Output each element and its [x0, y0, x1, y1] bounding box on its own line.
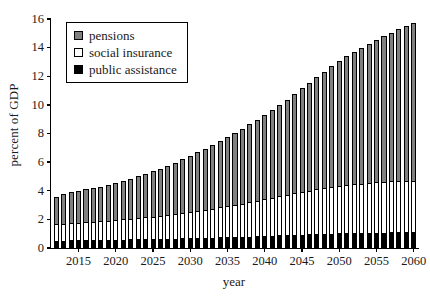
bar-segment-social-insurance [203, 210, 208, 238]
bar-segment-public-assistance [143, 239, 148, 248]
bar-segment-pensions [195, 152, 200, 211]
bar-segment-pensions [314, 77, 319, 189]
bar-segment-social-insurance [389, 181, 394, 232]
bar-segment-public-assistance [359, 233, 364, 248]
bar-stack [240, 129, 245, 248]
bar-segment-pensions [143, 174, 148, 217]
bar-segment-pensions [262, 115, 267, 199]
bar-segment-public-assistance [329, 234, 334, 248]
bar-segment-social-insurance [113, 220, 118, 240]
x-tick-label: 2030 [178, 252, 203, 268]
bar-segment-pensions [61, 194, 66, 223]
y-tick-label: 4 [38, 185, 47, 198]
bar-segment-social-insurance [136, 218, 141, 239]
bar-stack [277, 105, 282, 248]
bar-segment-public-assistance [83, 240, 88, 248]
bar-segment-social-insurance [180, 213, 185, 238]
bar-segment-pensions [165, 166, 170, 215]
bar-stack [143, 174, 148, 248]
bar-segment-social-insurance [352, 184, 357, 233]
bar-segment-public-assistance [136, 239, 141, 248]
bar-segment-pensions [322, 72, 327, 189]
bar-segment-pensions [292, 94, 297, 193]
bar-segment-social-insurance [151, 217, 156, 239]
bar-segment-pensions [91, 188, 96, 222]
bar-segment-pensions [411, 23, 416, 180]
white-square-icon [74, 48, 83, 57]
y-tick-label: 10 [32, 99, 48, 112]
bar-segment-social-insurance [300, 192, 305, 235]
bar-segment-social-insurance [255, 201, 260, 237]
bar-segment-public-assistance [121, 240, 126, 248]
bar-segment-public-assistance [188, 238, 193, 248]
bar-stack [165, 166, 170, 248]
bar-segment-social-insurance [188, 212, 193, 238]
x-axis-title: year [50, 274, 418, 290]
bar-segment-social-insurance [61, 224, 66, 241]
bar-segment-pensions [76, 191, 81, 223]
x-tick-label: 2015 [66, 252, 91, 268]
bar-segment-public-assistance [106, 240, 111, 248]
bar-stack [352, 52, 357, 248]
x-tick-label: 2060 [401, 252, 426, 268]
bar-segment-public-assistance [389, 232, 394, 248]
legend-item-label: social insurance [89, 46, 172, 59]
legend-item-label: public assistance [89, 63, 177, 76]
bar-stack [411, 23, 416, 248]
bar-segment-public-assistance [352, 233, 357, 248]
bar-segment-social-insurance [307, 191, 312, 235]
bar-segment-public-assistance [322, 234, 327, 248]
bar-stack [136, 176, 141, 248]
bar-segment-public-assistance [277, 235, 282, 248]
bar-segment-pensions [218, 141, 223, 207]
bar-segment-pensions [344, 56, 349, 185]
bar-stack [314, 77, 319, 248]
bar-segment-pensions [203, 149, 208, 210]
bar-segment-social-insurance [367, 183, 372, 233]
bar-segment-public-assistance [255, 236, 260, 248]
bar-stack [329, 66, 334, 248]
bar-segment-pensions [270, 110, 275, 198]
bar-stack [337, 61, 342, 248]
bar-stack [389, 33, 394, 248]
bar-segment-public-assistance [128, 239, 133, 248]
bar-segment-social-insurance [91, 222, 96, 240]
bar-segment-social-insurance [314, 189, 319, 234]
bar-segment-pensions [352, 52, 357, 184]
bar-stack [218, 141, 223, 248]
bar-segment-public-assistance [240, 237, 245, 248]
bar-segment-pensions [136, 176, 141, 218]
bar-segment-public-assistance [314, 234, 319, 248]
bar-segment-social-insurance [83, 222, 88, 240]
bar-segment-pensions [389, 33, 394, 182]
bar-segment-pensions [396, 29, 401, 181]
bar-segment-social-insurance [195, 211, 200, 238]
bar-stack [404, 26, 409, 248]
y-axis-title-text: percent of GDP [5, 84, 21, 167]
bar-segment-social-insurance [210, 209, 215, 238]
chart-figure: percent of GDP 0246810121416 20152020202… [0, 0, 430, 299]
bar-segment-social-insurance [411, 181, 416, 233]
bar-stack [203, 149, 208, 248]
bar-segment-public-assistance [262, 236, 267, 248]
bar-stack [54, 197, 59, 249]
bar-segment-pensions [173, 163, 178, 214]
bar-stack [106, 185, 111, 248]
bar-stack [121, 181, 126, 248]
bar-segment-pensions [225, 137, 230, 206]
bar-stack [210, 145, 215, 248]
bar-segment-social-insurance [396, 181, 401, 232]
bar-segment-social-insurance [322, 188, 327, 234]
bar-segment-public-assistance [203, 238, 208, 248]
bar-segment-public-assistance [247, 237, 252, 248]
bar-segment-social-insurance [344, 185, 349, 233]
bar-segment-public-assistance [158, 239, 163, 248]
bar-segment-public-assistance [98, 240, 103, 248]
bar-stack [247, 124, 252, 248]
bar-segment-pensions [247, 124, 252, 202]
bar-stack [374, 40, 379, 248]
bar-segment-social-insurance [158, 216, 163, 239]
bar-stack [128, 179, 133, 248]
bar-segment-public-assistance [151, 239, 156, 248]
y-tick-label: 2 [38, 213, 47, 226]
